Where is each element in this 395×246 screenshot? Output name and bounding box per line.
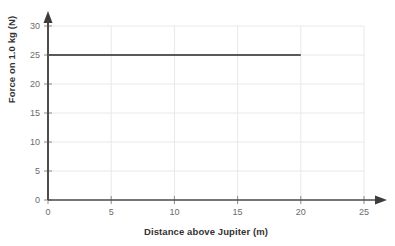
x-tick-label: 20 xyxy=(286,207,316,217)
y-tick-label: 5 xyxy=(18,166,40,176)
x-tick-label: 10 xyxy=(159,207,189,217)
y-tick-label: 30 xyxy=(18,21,40,31)
y-tick-label: 15 xyxy=(18,108,40,118)
y-tick-label: 20 xyxy=(18,79,40,89)
x-axis-arrowhead xyxy=(375,196,387,205)
tick-marks-group xyxy=(44,26,364,204)
axes-group xyxy=(44,11,388,205)
y-axis-arrowhead xyxy=(44,11,53,23)
x-tick-label: 25 xyxy=(349,207,379,217)
x-axis-title: Distance above Jupiter (m) xyxy=(48,226,364,237)
x-tick-label: 15 xyxy=(223,207,253,217)
chart-container: 051015202530 0510152025 Force on 1.0 kg … xyxy=(0,0,395,246)
x-tick-label: 0 xyxy=(33,207,63,217)
y-axis-title: Force on 1.0 kg (N) xyxy=(6,0,17,125)
x-tick-label: 5 xyxy=(96,207,126,217)
y-tick-label: 25 xyxy=(18,50,40,60)
y-tick-label: 0 xyxy=(18,195,40,205)
y-tick-label: 10 xyxy=(18,137,40,147)
gridlines-group xyxy=(48,26,364,200)
